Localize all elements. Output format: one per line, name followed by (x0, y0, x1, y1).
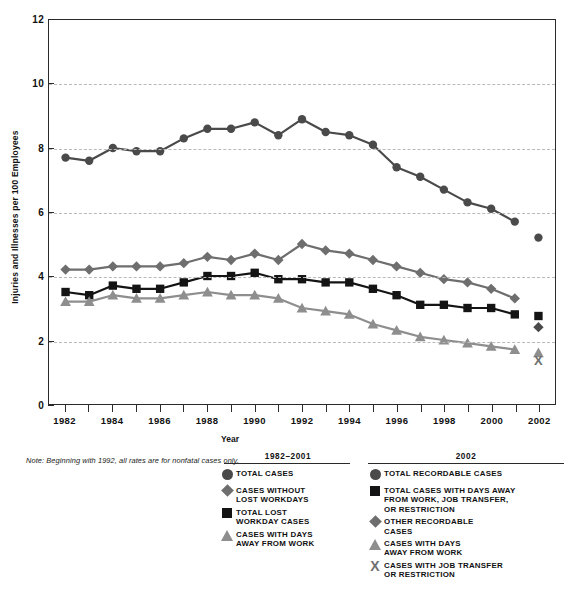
x-tick-mark (539, 405, 540, 412)
x-tick-mark (468, 405, 469, 412)
legend-diamond-icon (369, 515, 382, 528)
y-tick-mark (48, 341, 54, 342)
x-tick-mark (88, 405, 89, 412)
legend-triangle-icon (369, 539, 381, 550)
gridline (49, 277, 555, 278)
plot-svg: X (49, 20, 555, 404)
data-point-diamond (439, 274, 449, 284)
data-point-square (180, 278, 188, 286)
x-tick-label: 1986 (148, 415, 171, 426)
data-point-square (392, 291, 400, 299)
plot-area: X (48, 19, 556, 405)
legend-column-1982-2001: 1982–2001 TOTAL CASESCASES WITHOUT LOST … (218, 452, 358, 550)
data-point-square (345, 278, 353, 286)
y-tick-mark (48, 276, 54, 277)
legend-item[interactable]: TOTAL CASES (218, 468, 358, 483)
data-point-circle (440, 185, 448, 193)
x-tick-mark (444, 405, 445, 412)
data-point-diamond (60, 264, 70, 274)
data-point-diamond (533, 322, 543, 332)
data-point-square (321, 278, 329, 286)
gridline (49, 149, 555, 150)
x-tick-label: 1998 (433, 415, 456, 426)
x-tick-mark (397, 405, 398, 412)
x-tick-mark (207, 405, 208, 412)
data-point-circle (416, 173, 424, 181)
legend-marker (218, 529, 236, 541)
data-point-circle (251, 118, 259, 126)
legend-label: TOTAL RECORDABLE CASES (384, 468, 502, 478)
chart-page: 024681012 Injuries and Illnesses per 100… (0, 0, 578, 590)
legend-square-icon (370, 486, 380, 496)
gridline (49, 342, 555, 343)
legend-marker (218, 507, 236, 518)
x-tick-label: 1984 (101, 415, 124, 426)
data-point-x: X (534, 353, 543, 368)
legend-item[interactable]: CASES WITH DAYS AWAY FROM WORK (218, 529, 358, 549)
x-tick-mark (516, 405, 517, 412)
legend-rule-left (224, 463, 350, 464)
legend-marker (218, 485, 236, 495)
data-point-diamond (250, 248, 260, 258)
x-tick-mark (65, 405, 66, 412)
data-point-square (416, 301, 424, 309)
data-point-circle (534, 233, 542, 241)
data-point-diamond (368, 255, 378, 265)
legend-item[interactable]: OTHER RECORDABLE CASES (366, 516, 566, 536)
x-tick-mark (373, 405, 374, 412)
data-point-circle (274, 131, 282, 139)
y-tick-mark (48, 405, 54, 406)
x-tick-label: 1982 (53, 415, 76, 426)
x-tick-mark (278, 405, 279, 412)
legend-marker (366, 468, 384, 480)
data-point-square (463, 304, 471, 312)
legend-marker (366, 485, 384, 496)
data-point-square (440, 301, 448, 309)
data-point-circle (463, 198, 471, 206)
data-point-square (203, 272, 211, 280)
x-tick-mark (302, 405, 303, 412)
legend-title-left: 1982–2001 (218, 452, 358, 463)
data-point-square (109, 281, 117, 289)
x-tick-label: 2002 (528, 415, 551, 426)
legend-marker (366, 538, 384, 550)
legend-x-icon: X (370, 561, 379, 571)
x-tick-mark (421, 405, 422, 412)
y-tick-mark (48, 212, 54, 213)
data-point-diamond (155, 261, 165, 271)
data-point-diamond (320, 245, 330, 255)
legend-item[interactable]: XCASES WITH JOB TRANSFER OR RESTRICTION (366, 560, 566, 580)
legend-square-icon (222, 508, 232, 518)
y-tick-label: 10 (4, 78, 44, 89)
x-tick-label: 1992 (291, 415, 314, 426)
data-point-square (274, 275, 282, 283)
x-tick-mark (160, 405, 161, 412)
x-tick-mark (231, 405, 232, 412)
y-tick-mark (48, 19, 54, 20)
data-point-diamond (226, 255, 236, 265)
y-tick-label: 2 (4, 335, 44, 346)
data-point-circle (61, 153, 69, 161)
x-tick-label: 2000 (481, 415, 504, 426)
legend-item[interactable]: CASES WITHOUT LOST WORKDAYS (218, 485, 358, 505)
legend-circle-icon (370, 469, 381, 480)
x-tick-mark (492, 405, 493, 412)
legend-item[interactable]: TOTAL CASES WITH DAYS AWAY FROM WORK, JO… (366, 485, 566, 514)
legend-item[interactable]: TOTAL RECORDABLE CASES (366, 468, 566, 483)
data-point-square (251, 269, 259, 277)
legend-label: CASES WITH JOB TRANSFER OR RESTRICTION (384, 560, 503, 580)
y-axis-title: Injuries and Illnesses per 100 Employees (10, 117, 20, 317)
data-point-circle (321, 128, 329, 136)
legend-item[interactable]: CASES WITH DAYS AWAY FROM WORK (366, 538, 566, 558)
x-tick-mark (349, 405, 350, 412)
footnote: Note: Beginning with 1992, all rates are… (26, 456, 239, 465)
legend-diamond-icon (221, 484, 234, 497)
legend-label: TOTAL CASES (236, 468, 294, 478)
legend-item[interactable]: TOTAL LOST WORKDAY CASES (218, 507, 358, 527)
legend-circle-icon (222, 469, 233, 480)
legend-label: TOTAL LOST WORKDAY CASES (236, 507, 309, 527)
data-point-square (156, 285, 164, 293)
x-tick-mark (326, 405, 327, 412)
legend-items-left: TOTAL CASESCASES WITHOUT LOST WORKDAYSTO… (218, 468, 358, 548)
x-axis-ticks (48, 405, 556, 413)
